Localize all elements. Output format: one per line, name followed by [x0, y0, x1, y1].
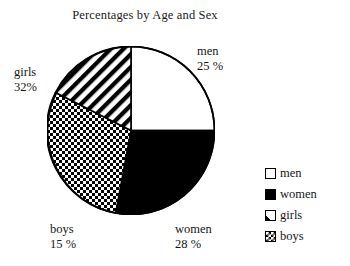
- slice-label-women-name: women: [175, 222, 212, 237]
- slice-label-men: men 25 %: [197, 44, 223, 74]
- legend-label-women: women: [280, 188, 317, 201]
- legend-item-boys: boys: [265, 226, 347, 247]
- slice-label-girls: girls 32%: [14, 65, 37, 95]
- slice-label-men-name: men: [197, 44, 223, 59]
- slice-label-women: women 28 %: [175, 222, 212, 252]
- chart-title: Percentages by Age and Sex: [0, 8, 290, 23]
- pie-graphic: [47, 46, 215, 215]
- pie-svg: [47, 46, 215, 215]
- legend-label-girls: girls: [280, 209, 302, 222]
- legend-label-men: men: [280, 167, 302, 180]
- slice-label-boys: boys 15 %: [50, 222, 76, 252]
- legend-swatch-boys-icon: [265, 231, 276, 242]
- legend-item-girls: girls: [265, 205, 347, 226]
- pie-chart-figure: Percentages by Age and Sex: [0, 0, 350, 266]
- legend-swatch-girls-icon: [265, 210, 276, 221]
- slice-label-men-value: 25 %: [197, 59, 223, 74]
- legend-swatch-women-icon: [265, 189, 276, 200]
- legend-swatch-men-icon: [265, 168, 276, 179]
- slice-label-boys-value: 15 %: [50, 237, 76, 252]
- legend-item-men: men: [265, 163, 347, 184]
- slice-label-women-value: 28 %: [175, 237, 212, 252]
- slice-label-girls-name: girls: [14, 65, 37, 80]
- chart-legend: men women girls boys: [265, 163, 347, 247]
- pie-slice-women: [116, 131, 215, 215]
- legend-item-women: women: [265, 184, 347, 205]
- slice-label-girls-value: 32%: [14, 80, 37, 95]
- legend-label-boys: boys: [280, 230, 304, 243]
- slice-label-boys-name: boys: [50, 222, 76, 237]
